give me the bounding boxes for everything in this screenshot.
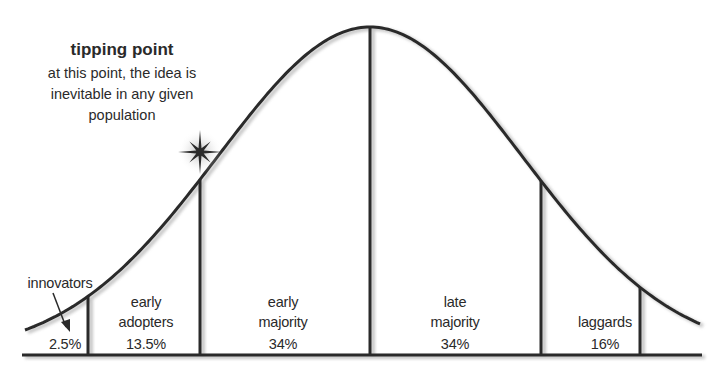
segment-late-majority: late majority 34% xyxy=(430,294,480,352)
segment-percent: 2.5% xyxy=(49,336,82,352)
segment-label: early xyxy=(268,294,299,310)
segment-percent: 16% xyxy=(591,336,620,352)
segment-percent: 13.5% xyxy=(126,336,166,352)
segment-label: adopters xyxy=(119,314,174,330)
annotation-line: at this point, the idea is xyxy=(48,65,196,81)
segment-label: late xyxy=(444,294,467,310)
segment-percent: 34% xyxy=(269,336,298,352)
innovators-label: innovators xyxy=(28,275,93,291)
segment-early-majority: early majority 34% xyxy=(258,294,308,352)
segment-label: majority xyxy=(258,314,308,330)
annotation-title: tipping point xyxy=(71,40,174,59)
diagram-canvas: tipping point at this point, the idea is… xyxy=(0,0,724,383)
segment-laggards: laggards 16% xyxy=(578,314,632,352)
segment-percent: 34% xyxy=(441,336,470,352)
segment-innovators: 2.5% xyxy=(49,336,82,352)
annotation-line: population xyxy=(89,107,156,123)
segment-label: early xyxy=(131,294,162,310)
segment-label: majority xyxy=(430,314,480,330)
tipping-point-annotation: tipping point at this point, the idea is… xyxy=(48,40,196,123)
arrowhead-icon xyxy=(61,319,70,332)
annotation-line: inevitable in any given xyxy=(51,86,194,102)
segment-label: laggards xyxy=(578,314,632,330)
segment-early-adopters: early adopters 13.5% xyxy=(119,294,174,352)
bell-curve-diagram: tipping point at this point, the idea is… xyxy=(0,0,724,383)
